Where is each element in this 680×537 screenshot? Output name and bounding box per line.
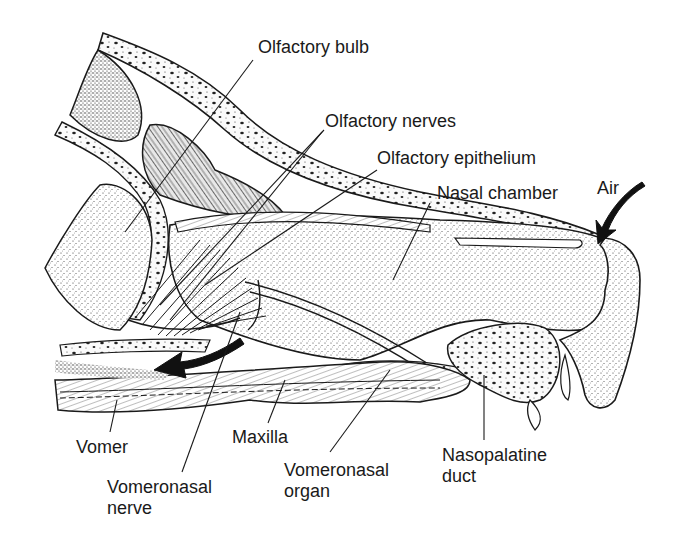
posterior-tissue bbox=[45, 184, 152, 330]
label-nasopalatine-duct: Nasopalatine duct bbox=[442, 445, 547, 487]
label-olfactory-epithelium: Olfactory epithelium bbox=[377, 148, 536, 169]
label-olfactory-bulb: Olfactory bulb bbox=[258, 37, 369, 58]
label-vomeronasal-nerve: Vomeronasal nerve bbox=[107, 477, 212, 519]
label-nasal-chamber: Nasal chamber bbox=[437, 183, 558, 204]
label-vomeronasal-organ: Vomeronasal organ bbox=[284, 460, 389, 502]
label-air: Air bbox=[597, 178, 619, 199]
label-olfactory-nerves: Olfactory nerves bbox=[325, 111, 456, 132]
label-maxilla: Maxilla bbox=[232, 427, 288, 448]
label-vomer: Vomer bbox=[76, 437, 128, 458]
